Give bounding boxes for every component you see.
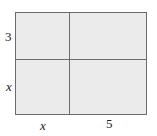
label-bottom-left: x <box>40 119 46 132</box>
horizontal-divider <box>15 59 147 60</box>
vertical-divider <box>69 12 70 115</box>
label-bottom-right: 5 <box>106 117 113 130</box>
label-left-bottom: x <box>6 80 12 93</box>
label-left-top: 3 <box>5 30 12 43</box>
outer-rectangle <box>15 12 147 115</box>
